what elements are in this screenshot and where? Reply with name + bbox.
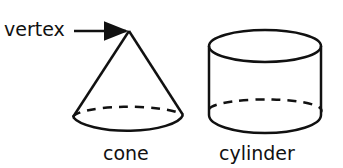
- cylinder-base-back-dashed: [209, 99, 322, 112]
- cone-base-back-dashed: [73, 107, 183, 117]
- cone-right-edge: [129, 31, 183, 115]
- solids-diagram: vertex cone cylinder: [0, 0, 343, 168]
- cone-label: cone: [103, 142, 149, 164]
- cone-base-front: [73, 115, 183, 131]
- cylinder-label: cylinder: [219, 142, 295, 164]
- cone-figure: vertex cone: [4, 18, 183, 164]
- cylinder-figure: cylinder: [209, 30, 322, 164]
- cylinder-top-ellipse: [209, 30, 321, 62]
- vertex-label: vertex: [4, 18, 65, 40]
- cone-left-edge: [73, 31, 129, 117]
- cylinder-base-front: [209, 115, 321, 133]
